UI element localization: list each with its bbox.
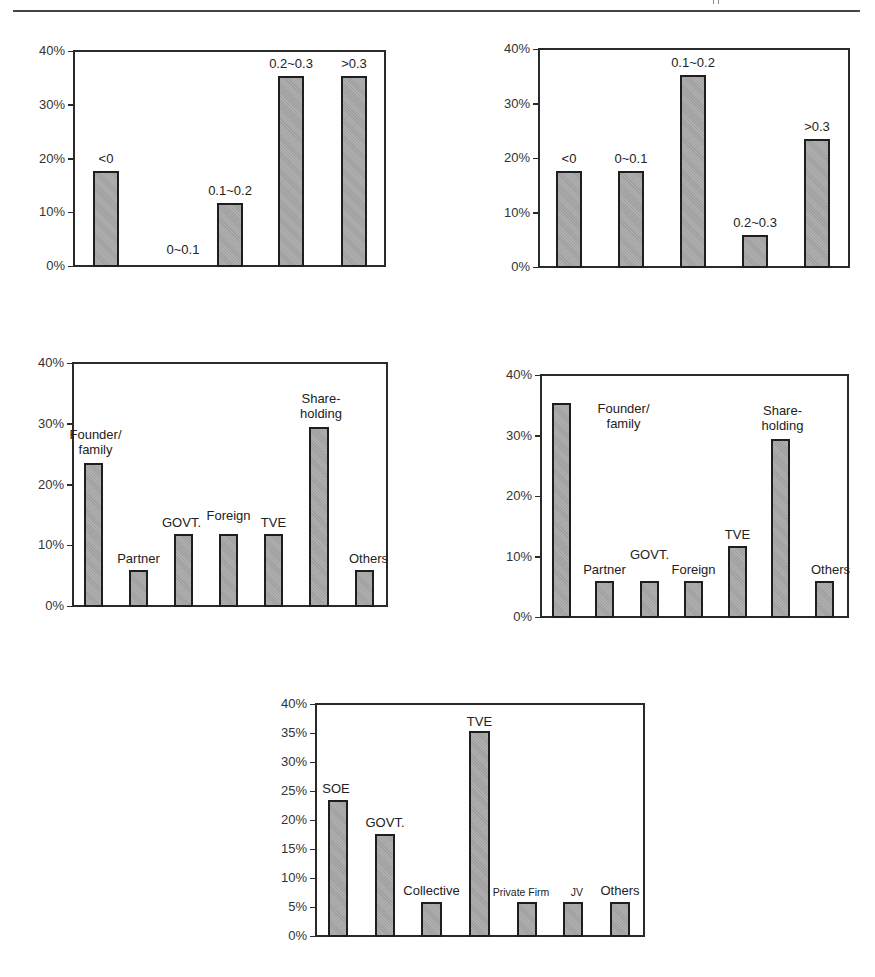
y-axis-tick-label: 40% (267, 697, 307, 711)
page-header-rule (500, 10, 860, 12)
y-axis-tick-mark (310, 733, 316, 735)
y-axis-tick-mark (535, 496, 541, 498)
y-axis-tick-mark (535, 375, 541, 377)
y-axis-tick-mark (310, 936, 316, 938)
bar-label: Others (349, 551, 388, 566)
bar-foreign (219, 534, 238, 607)
bar-share-holding (771, 439, 790, 618)
y-axis-tick-label: 15% (267, 842, 307, 856)
y-axis-tick-label: 30% (24, 417, 64, 431)
bar-label: 0~0.1 (167, 242, 200, 257)
bar-label: SOE (322, 781, 349, 796)
bar-govt- (640, 581, 659, 618)
bar-private-firm (517, 902, 537, 937)
y-axis-tick-label: 0% (492, 610, 532, 624)
bar-label: Others (811, 562, 850, 577)
bar-label: TVE (467, 714, 492, 729)
bar--0-3 (341, 76, 367, 267)
bar-label: Partner (583, 562, 626, 577)
bar--0 (93, 171, 119, 267)
y-axis-tick-mark (68, 158, 74, 160)
bar-label: GOVT. (630, 547, 669, 562)
bar-others (815, 581, 834, 618)
bar-label: JV (571, 885, 583, 900)
bar-label: GOVT. (162, 515, 201, 530)
bar-others (355, 570, 374, 607)
bar-label: Collective (403, 883, 459, 898)
y-axis-tick-label: 10% (492, 550, 532, 564)
y-axis-tick-label: 20% (25, 152, 65, 166)
bar-0-2-0-3 (278, 76, 304, 267)
bar-label: <0 (562, 151, 577, 166)
y-axis-tick-mark (67, 545, 73, 547)
bar-label: Foreign (206, 508, 250, 523)
header-tick-mark (713, 0, 714, 4)
y-axis-tick-mark (68, 51, 74, 53)
y-axis-tick-mark (310, 704, 316, 706)
y-axis-tick-label: 25% (267, 784, 307, 798)
bar-collective (421, 902, 442, 937)
bar-0-0-1 (618, 171, 644, 268)
bar-label: Foreign (671, 562, 715, 577)
y-axis-tick-label: 10% (267, 871, 307, 885)
y-axis-tick-mark (310, 878, 316, 880)
bar-0-1-0-2 (680, 75, 706, 268)
bar-label: Share- holding (762, 403, 804, 433)
y-axis-tick-label: 40% (24, 356, 64, 370)
y-axis-tick-label: 40% (490, 42, 530, 56)
y-axis-tick-label: 30% (492, 429, 532, 443)
y-axis-tick-label: 10% (490, 206, 530, 220)
y-axis-tick-label: 30% (25, 98, 65, 112)
bar-label: >0.3 (804, 119, 830, 134)
y-axis-tick-mark (68, 104, 74, 106)
y-axis-tick-label: 20% (267, 813, 307, 827)
bar-label: TVE (261, 515, 286, 530)
bar-label: Founder/ family (69, 427, 121, 457)
bar-partner (595, 581, 614, 618)
y-axis-tick-mark (68, 212, 74, 214)
y-axis-tick-mark (533, 49, 539, 51)
bar-label: <0 (99, 151, 114, 166)
y-axis-tick-mark (67, 484, 73, 486)
y-axis-tick-label: 20% (490, 151, 530, 165)
y-axis-tick-mark (533, 212, 539, 214)
bar-govt- (375, 834, 395, 937)
y-axis-tick-label: 10% (24, 538, 64, 552)
y-axis-tick-mark (535, 435, 541, 437)
bar-tve (264, 534, 283, 607)
y-axis-tick-mark (310, 791, 316, 793)
y-axis-tick-mark (67, 423, 73, 425)
bar--0 (556, 171, 582, 268)
y-axis-tick-mark (533, 158, 539, 160)
bar-soe (328, 800, 348, 937)
y-axis-tick-label: 0% (267, 929, 307, 943)
y-axis-tick-mark (535, 617, 541, 619)
bar-foreign (684, 581, 703, 618)
y-axis-tick-label: 40% (25, 44, 65, 58)
bar-founder-family (552, 403, 571, 618)
bar-label: >0.3 (341, 56, 367, 71)
y-axis-tick-label: 20% (492, 489, 532, 503)
bar-govt- (174, 534, 193, 607)
bar-partner (129, 570, 148, 607)
bar--0-3 (804, 139, 830, 268)
bar-label: GOVT. (365, 815, 404, 830)
bar-label: Share- holding (300, 391, 342, 421)
y-axis-tick-mark (533, 103, 539, 105)
bar-label: 0.2~0.3 (269, 56, 313, 71)
y-axis-tick-label: 30% (267, 755, 307, 769)
y-axis-tick-label: 0% (490, 260, 530, 274)
bar-label: 0~0.1 (615, 151, 648, 166)
bar-0-1-0-2 (217, 203, 243, 267)
y-axis-tick-mark (310, 820, 316, 822)
bar-tve (728, 546, 747, 618)
bar-label: Partner (117, 551, 160, 566)
y-axis-tick-label: 0% (24, 599, 64, 613)
bar-0-2-0-3 (742, 235, 768, 268)
page-header-rule-left (13, 10, 513, 12)
bar-jv (563, 902, 583, 937)
y-axis-tick-mark (533, 267, 539, 269)
bar-others (610, 902, 630, 937)
y-axis-tick-mark (310, 762, 316, 764)
y-axis-tick-mark (310, 849, 316, 851)
